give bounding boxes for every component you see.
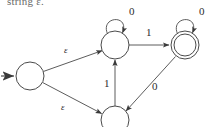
self-loop-accepting-label: 0 bbox=[199, 5, 205, 17]
transition-zero-diag-label: 0 bbox=[152, 80, 158, 92]
epsilon-transition-upper: ε bbox=[43, 45, 102, 72]
state-lower-state bbox=[101, 106, 129, 127]
epsilon-transition-lower: ε bbox=[43, 83, 102, 114]
state-start-state bbox=[16, 62, 44, 90]
lower-state-circle bbox=[101, 106, 129, 127]
upper-state-circle bbox=[101, 31, 129, 59]
state-upper-state bbox=[101, 31, 129, 59]
epsilon-upper-label: ε bbox=[64, 45, 68, 55]
epsilon-lower-label: ε bbox=[61, 102, 65, 112]
self-loop-upper-label: 0 bbox=[129, 5, 135, 17]
self-loop-upper-state: 0 bbox=[106, 5, 135, 34]
start-state-circle bbox=[16, 62, 44, 90]
transition-zero-diag-line bbox=[126, 57, 176, 112]
transition-upper-to-accepting: 1 bbox=[129, 26, 169, 45]
accepting-state-inner-circle bbox=[174, 34, 196, 56]
transition-lower-to-upper: 1 bbox=[104, 60, 115, 106]
automaton-diagram: ε ε 0 1 0 0 1 bbox=[0, 0, 206, 127]
transition-one-right-label: 1 bbox=[146, 26, 152, 38]
epsilon-lower-edge-line bbox=[43, 83, 102, 114]
state-accepting-state bbox=[171, 31, 199, 59]
transition-one-up-label: 1 bbox=[104, 77, 110, 89]
epsilon-upper-edge-line bbox=[43, 51, 102, 72]
figure-canvas: string ε. ε ε 0 bbox=[0, 0, 206, 127]
transition-accepting-to-lower: 0 bbox=[126, 57, 176, 112]
self-loop-accepting-state: 0 bbox=[176, 5, 205, 34]
